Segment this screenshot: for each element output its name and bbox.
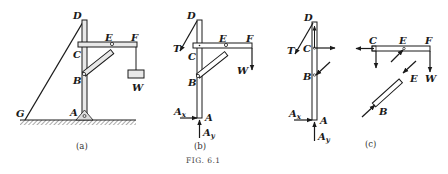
cable-gd <box>25 22 83 120</box>
ground-hatch <box>20 120 136 125</box>
post-ad <box>82 20 87 115</box>
beam-cf <box>372 46 430 51</box>
label-ay: Ay <box>202 127 216 140</box>
force-b-arrow <box>316 62 330 75</box>
label-g: G <box>16 108 25 119</box>
panel-a: D E F C B W A G (a) <box>16 10 145 151</box>
label-e: E <box>104 32 113 43</box>
label-d: D <box>186 10 196 21</box>
force-e-arrow <box>391 50 403 62</box>
panel-b: D T E F C B W Ax A Ay (b) FIG. 6.1 <box>173 10 254 165</box>
label-w: W <box>237 65 250 76</box>
weight-w <box>128 70 144 78</box>
label-d: D <box>72 10 82 21</box>
figure-caption: FIG. 6.1 <box>186 156 221 165</box>
label-e: E <box>398 35 407 46</box>
label-a: A <box>319 115 328 126</box>
label-a: A <box>69 107 78 118</box>
label-c: C <box>188 51 196 62</box>
figure-6-1: D E F C B W A G (a) D T E F C B W Ax A <box>0 0 448 174</box>
caption-a: (a) <box>76 141 88 151</box>
label-t: T <box>287 45 296 56</box>
label-c: C <box>369 35 377 46</box>
label-d: D <box>303 12 313 23</box>
label-a: A <box>204 112 213 123</box>
label-c: C <box>73 49 81 60</box>
label-b: B <box>302 71 311 82</box>
label-b: B <box>378 106 387 117</box>
label-w: W <box>425 73 438 84</box>
pin-support-a <box>76 110 93 120</box>
label-f: F <box>424 35 433 46</box>
label-f: F <box>245 33 254 44</box>
label-b: B <box>187 77 196 88</box>
label-c: C <box>303 43 311 54</box>
label-w: W <box>132 82 145 93</box>
label-ax: Ax <box>173 106 187 119</box>
caption-c: (c) <box>365 139 376 149</box>
force-b-brace-arrow <box>362 105 375 117</box>
label-e: E <box>218 33 227 44</box>
panel-c: D T C B Ax A Ay C E F W E B (c) <box>287 12 438 149</box>
label-ay: Ay <box>317 131 331 144</box>
label-f: F <box>130 32 139 43</box>
label-b: B <box>72 75 81 86</box>
label-ax: Ax <box>288 108 302 121</box>
post-ad <box>197 20 202 118</box>
brace-be <box>372 79 402 107</box>
label-t: T <box>173 43 182 54</box>
force-e-brace-arrow <box>403 61 416 73</box>
label-e: E <box>409 73 418 84</box>
caption-b: (b) <box>194 141 206 151</box>
